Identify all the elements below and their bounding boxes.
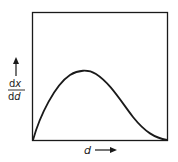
y-axis-label: dx dd xyxy=(8,78,25,102)
diagram-canvas: dx dd d xyxy=(0,0,178,162)
rate-curve xyxy=(33,71,167,140)
svg-text:dx: dx xyxy=(9,78,21,89)
up-arrow-icon xyxy=(13,57,19,76)
svg-text:dd: dd xyxy=(8,91,21,102)
right-arrow-icon xyxy=(95,147,117,153)
x-axis-label: d xyxy=(84,144,92,157)
y-denominator-var: d xyxy=(14,91,21,102)
y-numerator-var: x xyxy=(14,78,21,89)
